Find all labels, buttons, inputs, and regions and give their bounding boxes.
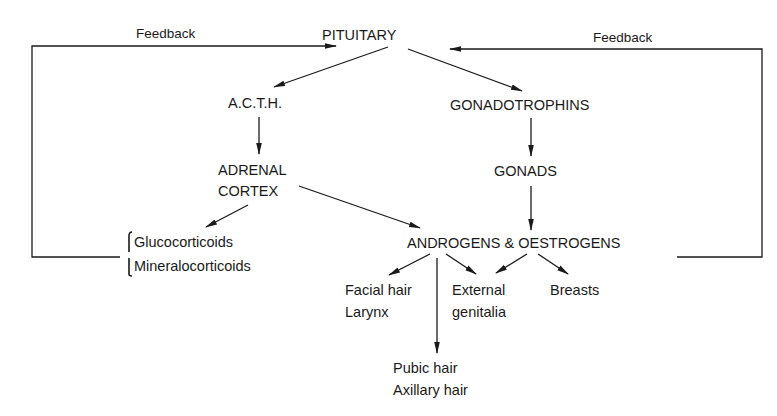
arrow-pituitary-gonadotrophins bbox=[408, 49, 522, 91]
node-acth: A.C.T.H. bbox=[228, 92, 282, 114]
node-pubic-hair: Pubic hair bbox=[393, 357, 457, 379]
arrow-androgens-facial bbox=[389, 254, 430, 275]
node-larynx: Larynx bbox=[345, 301, 389, 323]
arrow-adrenal-androgens bbox=[299, 186, 420, 228]
feedback-right-line bbox=[450, 49, 762, 257]
feedback-right-label: Feedback bbox=[593, 27, 652, 49]
feedback-left-line bbox=[32, 46, 336, 257]
arrow-androgens-external-a bbox=[446, 254, 476, 274]
node-axillary-hair: Axillary hair bbox=[393, 379, 468, 401]
brace bbox=[129, 232, 132, 276]
feedback-left-label: Feedback bbox=[136, 23, 195, 45]
node-breasts: Breasts bbox=[550, 279, 599, 301]
node-adrenal-line1: ADRENAL bbox=[218, 159, 287, 181]
node-gonads: GONADS bbox=[494, 160, 557, 182]
node-glucocorticoids: Glucocorticoids bbox=[134, 231, 233, 253]
node-pituitary: PITUITARY bbox=[322, 24, 396, 46]
arrow-androgens-external-b bbox=[496, 254, 527, 273]
node-mineralocorticoids: Mineralocorticoids bbox=[134, 255, 251, 277]
node-gonadotrophins: GONADOTROPHINS bbox=[450, 94, 589, 116]
arrow-adrenal-corticoids bbox=[206, 205, 248, 227]
node-external-line1: External bbox=[452, 279, 505, 301]
arrow-pituitary-acth bbox=[274, 47, 388, 87]
arrow-androgens-breasts bbox=[538, 254, 568, 274]
node-androgens-oestrogens: ANDROGENS & OESTROGENS bbox=[407, 232, 621, 254]
node-adrenal-line2: CORTEX bbox=[218, 180, 278, 202]
diagram-connectors bbox=[0, 0, 777, 416]
node-external-line2: genitalia bbox=[452, 301, 506, 323]
node-facial-hair: Facial hair bbox=[345, 279, 412, 301]
